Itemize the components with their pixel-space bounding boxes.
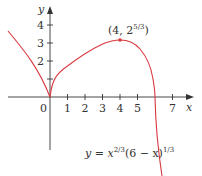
peak-point-label: (4, 25/3)	[108, 23, 149, 37]
x-tick-label-4: 4	[117, 102, 124, 115]
y-tick-label-2: 2	[37, 55, 44, 68]
x-tick-label-0: 0	[40, 102, 47, 115]
equation-label: y = x2/3(6 − x)1/3	[84, 146, 174, 160]
curve-right-branch	[50, 40, 155, 97]
peak-point-marker	[118, 38, 122, 42]
y-axis-label: y	[37, 3, 45, 16]
y-axis-arrow-icon	[47, 6, 53, 14]
x-axis-arrow-icon	[186, 94, 194, 100]
x-tick-label-2: 2	[82, 102, 89, 115]
y-tick-label-3: 3	[37, 37, 44, 50]
curve-tail	[155, 97, 162, 176]
x-tick-label-1: 1	[64, 102, 71, 115]
x-tick-label-7: 7	[169, 102, 176, 115]
x-tick-label-5: 5	[134, 102, 141, 115]
y-tick-label-4: 4	[37, 19, 44, 32]
x-tick-label-3: 3	[99, 102, 106, 115]
x-axis-label: x	[186, 101, 193, 114]
graph: 0 1 2 3 4 5 7 x 2 3 4 y (4, 25/3) y = x2…	[0, 0, 202, 176]
